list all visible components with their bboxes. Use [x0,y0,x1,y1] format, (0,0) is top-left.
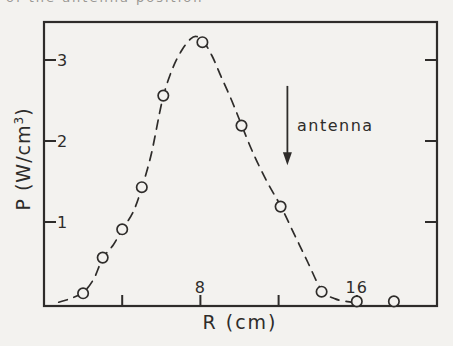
data-point [352,296,362,306]
data-point [197,37,207,47]
data-point [158,90,168,100]
y-axis-title-suffix: ) [12,107,34,115]
x-axis-title: R (cm) [202,311,277,333]
data-point [98,252,108,262]
data-point [117,224,127,234]
y-axis-title-prefix: P (W/cm [12,125,34,211]
data-point [78,288,88,298]
data-point [137,182,147,192]
antenna-arrow-head [283,152,292,165]
data-point [389,296,399,306]
data-point [316,287,326,297]
x-tick-label: 8 [195,278,206,297]
y-tick-label: 1 [57,213,68,232]
y-axis-title-superscript: 3 [12,116,26,125]
y-tick-label: 2 [57,132,68,151]
scanned-figure: of the antenna position R (cm) P (W/cm3)… [0,0,453,346]
data-point [236,120,246,130]
antenna-annotation-label: antenna [297,116,374,135]
data-point [275,201,285,211]
y-tick-label: 3 [57,51,68,70]
x-tick-label: 16 [346,278,368,297]
